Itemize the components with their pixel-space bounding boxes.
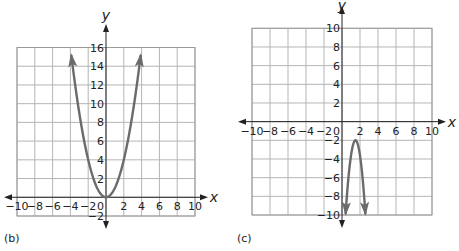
y-tick-label: −10 — [317, 209, 340, 222]
x-axis-label: x — [447, 114, 457, 130]
x-tick-label: −4 — [62, 200, 78, 213]
y-tick-label: 14 — [90, 60, 104, 73]
y-tick-label: 8 — [333, 41, 340, 54]
y-axis-up-arrow-icon — [103, 24, 109, 32]
x-tick-label: 10 — [425, 125, 439, 138]
y-tick-label: −8 — [324, 190, 340, 203]
y-tick-label: −2 — [88, 210, 104, 223]
x-tick-label: 2 — [120, 200, 127, 213]
x-tick-label: −6 — [280, 125, 296, 138]
panel-label-b: (b) — [4, 232, 20, 245]
x-tick-label: 4 — [375, 125, 382, 138]
y-tick-label: −6 — [324, 172, 340, 185]
y-axis-label: y — [337, 0, 347, 13]
x-tick-label: 10 — [188, 200, 202, 213]
y-tick-label: 12 — [90, 79, 104, 92]
y-tick-label: 8 — [97, 116, 104, 129]
x-axis-right-arrow-icon — [438, 119, 446, 125]
x-tick-label: 8 — [411, 125, 418, 138]
x-tick-label: 8 — [174, 200, 181, 213]
x-axis-label: x — [209, 189, 219, 205]
y-tick-label: 4 — [97, 154, 104, 167]
y-tick-label: 4 — [333, 78, 340, 91]
graph-b: xy−10−8−6−4−20246810−2246810121416 — [4, 7, 219, 229]
x-tick-label: −6 — [44, 200, 60, 213]
y-tick-label: 10 — [326, 22, 340, 35]
y-tick-label: −2 — [324, 134, 340, 147]
x-tick-label: −4 — [298, 125, 314, 138]
y-axis-label: y — [101, 7, 111, 23]
panel-label-c: (c) — [237, 232, 252, 245]
x-tick-label: 6 — [156, 200, 163, 213]
x-tick-label: −8 — [27, 200, 43, 213]
x-tick-label: −8 — [262, 125, 278, 138]
x-tick-label: −10 — [240, 125, 263, 138]
y-tick-label: 6 — [97, 135, 104, 148]
y-tick-label: 6 — [333, 60, 340, 73]
x-tick-label: 6 — [393, 125, 400, 138]
y-tick-label: 2 — [333, 97, 340, 110]
y-tick-label: 2 — [97, 173, 104, 186]
y-tick-label: 10 — [90, 98, 104, 111]
x-tick-label: −10 — [5, 200, 28, 213]
chart-canvas: xy−10−8−6−4−20246810−2246810121416 xy−10… — [0, 0, 459, 251]
x-tick-label: 4 — [138, 200, 145, 213]
y-tick-label: −4 — [324, 153, 340, 166]
x-tick-label: 2 — [357, 125, 364, 138]
graph-c: xy−10−8−6−4−20246810−10−8−6−4−2246810 — [238, 0, 457, 228]
y-tick-label: 16 — [90, 42, 104, 55]
